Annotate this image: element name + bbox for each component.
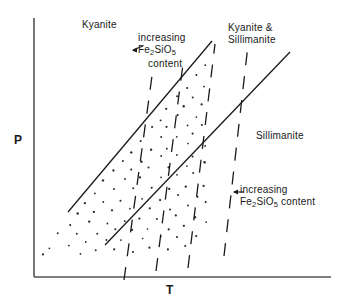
stipple-dot (184, 245, 186, 247)
stipple-dot (124, 220, 126, 222)
stipple-dot (195, 74, 197, 76)
annotation-increasing-lower-formula: Fe2SiO5 content (240, 196, 315, 207)
stipple-dot (129, 208, 131, 210)
stipple-dot (204, 145, 206, 147)
stipple-dot (203, 161, 205, 163)
stipple-dot (148, 247, 150, 249)
stipple-dot (196, 116, 198, 118)
stipple-dot (42, 253, 44, 255)
annotation-increasing-lower-line1: increasing (240, 184, 288, 195)
stipple-dot (176, 154, 178, 156)
stipple-dot (120, 239, 122, 241)
stipple-dot (102, 201, 104, 203)
stipple-dot (195, 235, 197, 237)
solid-boundaries-group (68, 41, 290, 245)
stipple-dot (139, 176, 141, 178)
stipple-dot (187, 205, 189, 207)
stipple-dot (156, 218, 158, 220)
field-label-ky-sill-line2: Sillimanite (228, 34, 276, 45)
stipple-dot (94, 192, 96, 194)
stipple-dot (176, 95, 178, 97)
stipple-dot (165, 108, 167, 110)
stipple-dot (84, 202, 86, 204)
stipple-dot (76, 233, 78, 235)
stipple-dot (48, 247, 50, 249)
stipple-dot (95, 249, 97, 251)
stipple-dot (132, 187, 134, 189)
stipple-dot (187, 124, 189, 126)
stipple-dot (203, 86, 205, 88)
stipple-dot (119, 200, 121, 202)
stipple-dot (187, 143, 189, 145)
stipple-dot (113, 188, 115, 190)
stipple-dot (183, 225, 185, 227)
annotation-increasing-upper-line3: content (138, 58, 182, 70)
stipple-dot (122, 160, 124, 162)
stipple-dot (176, 236, 178, 238)
dashed-isopleth-1 (124, 76, 152, 280)
stipple-dot (105, 239, 107, 241)
stipple-dot (168, 188, 170, 190)
stipple-dot (166, 148, 168, 150)
formula-fe-2: Fe (240, 196, 252, 207)
stipple-dot (142, 238, 144, 240)
kyanite-field-stipple (42, 64, 207, 255)
dashed-isopleths-group (124, 44, 248, 280)
stipple-dot (113, 248, 115, 250)
stipple-dot (147, 228, 149, 230)
stipple-dot (77, 212, 79, 214)
stipple-dot (202, 185, 204, 187)
stipple-dot (141, 198, 143, 200)
annotation-increasing-upper-line1: increasing (138, 32, 186, 43)
stipple-dot (93, 211, 95, 213)
stipple-dot (168, 228, 170, 230)
stipple-dot (68, 245, 70, 247)
stipple-dot (149, 207, 151, 209)
lower-annotation-arrowhead (233, 189, 238, 194)
stipple-dot (160, 119, 162, 121)
stipple-dot (88, 220, 90, 222)
stipple-dot (160, 136, 162, 138)
stipple-dot (191, 132, 193, 134)
stipple-dot (132, 251, 134, 253)
stipple-dot (151, 126, 153, 128)
stipple-dot (176, 136, 178, 138)
stipple-dot (130, 151, 132, 153)
stipple-dot (102, 179, 104, 181)
stipple-dot (85, 241, 87, 243)
annotation-increasing-upper-formula: Fe2SiO5 (138, 44, 176, 55)
stipple-dot (176, 174, 178, 176)
stipple-dot (185, 185, 187, 187)
stipple-dot (147, 167, 149, 169)
formula-sio: SiO (154, 44, 171, 55)
annotation-increasing-lower: increasing Fe2SiO5 content (240, 184, 315, 210)
solid-boundary-2 (105, 52, 290, 245)
formula-fe: Fe (138, 44, 150, 55)
stipple-dot (124, 178, 126, 180)
stipple-dot (159, 199, 161, 201)
stipple-dot (107, 223, 109, 225)
stipple-dot (150, 149, 152, 151)
stipple-dot (69, 224, 71, 226)
stipple-dot (186, 165, 188, 167)
stipple-dot (204, 64, 206, 66)
field-label-sillimanite: Sillimanite (256, 130, 304, 142)
phase-diagram-figure: Kyanite increasing Fe2SiO5 content Kyani… (0, 0, 339, 307)
stipple-dot (80, 253, 82, 255)
upper-annotation-arrowhead (132, 48, 137, 53)
dashed-isopleth-4 (224, 45, 248, 256)
stipple-dot (201, 124, 203, 126)
x-axis-label: T (166, 283, 173, 297)
stipple-dot (114, 228, 116, 230)
stipple-dot (183, 105, 185, 107)
stipple-dot (175, 214, 177, 216)
stipple-dot (192, 155, 194, 157)
field-label-kyanite-sillimanite: Kyanite & Sillimanite (228, 22, 276, 45)
y-axis-label: P (14, 133, 22, 147)
stipple-dot (177, 114, 179, 116)
stipple-dot (112, 169, 114, 171)
field-label-ky-sill-line1: Kyanite & (228, 22, 273, 33)
stipple-dot (57, 232, 59, 234)
formula-sio-2: SiO (256, 196, 273, 207)
stipple-dot (151, 187, 153, 189)
